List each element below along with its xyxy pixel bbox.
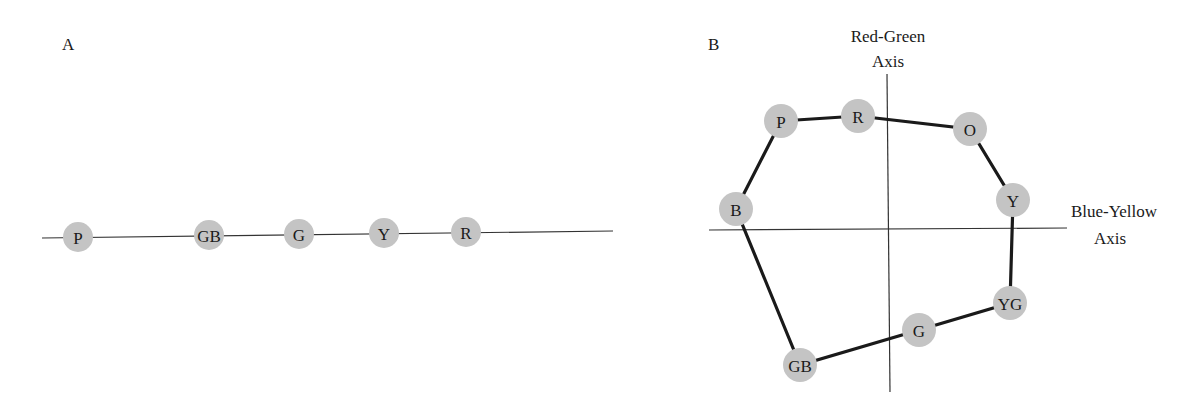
panel-b-nodes: PROYYGGGBB (719, 99, 1030, 382)
red-green-axis (887, 74, 890, 392)
node-label: G (293, 226, 305, 245)
panel-b-node-r: R (841, 99, 875, 133)
node-label: R (852, 108, 864, 127)
node-label: O (964, 121, 976, 140)
panel-a-node-y: Y (369, 218, 399, 248)
panel-a-node-p: P (63, 222, 93, 252)
panel-b-node-y: Y (996, 183, 1030, 217)
panel-b-node-o: O (953, 112, 987, 146)
node-label: R (460, 224, 472, 243)
panel-b-node-p: P (764, 104, 798, 138)
panel-a-hue-line (42, 231, 613, 238)
node-label: GB (197, 227, 221, 246)
node-label: GB (788, 357, 812, 376)
red-green-axis-label-line2: Axis (872, 52, 904, 71)
node-label: P (776, 113, 785, 132)
panel-b-node-gb: GB (783, 348, 817, 382)
panel-b-node-g: G (902, 313, 936, 347)
node-label: G (913, 322, 925, 341)
node-label: Y (1007, 192, 1019, 211)
blue-yellow-axis-label-line2: Axis (1094, 229, 1126, 248)
hue-circle-polygon (736, 116, 1013, 365)
blue-yellow-axis-label-line1: Blue-Yellow (1071, 202, 1158, 221)
panel-b: B Red-Green Axis Blue-Yellow Axis PROYYG… (708, 27, 1158, 392)
node-label: YG (998, 295, 1023, 314)
panel-b-node-yg: YG (993, 286, 1027, 320)
red-green-axis-label-line1: Red-Green (851, 27, 926, 46)
panel-a-node-gb: GB (194, 220, 224, 250)
node-label: Y (378, 225, 390, 244)
panel-b-label: B (708, 35, 719, 54)
panel-a: A PGBGYR (42, 35, 613, 252)
panel-a-label: A (62, 35, 75, 54)
node-label: B (730, 201, 741, 220)
panel-a-node-g: G (284, 219, 314, 249)
panel-a-nodes: PGBGYR (63, 217, 481, 252)
panel-b-node-b: B (719, 192, 753, 226)
color-space-diagram: A PGBGYR B Red-Green Axis Blue-Yellow Ax… (0, 0, 1199, 403)
panel-a-node-r: R (451, 217, 481, 247)
node-label: P (73, 229, 82, 248)
